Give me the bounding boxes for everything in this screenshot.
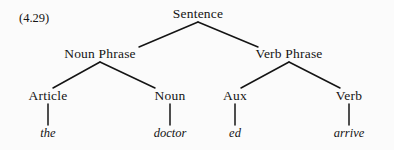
sentence-to-verb-phrase — [198, 22, 258, 47]
leaf-the: the — [40, 127, 55, 140]
node-sentence: Sentence — [173, 7, 223, 21]
node-aux: Aux — [223, 89, 247, 103]
node-verb: Verb — [336, 89, 362, 103]
parse-tree-figure: (4.29) Sentence Noun Phrase Verb Phrase … — [0, 0, 394, 150]
noun-phrase-to-article — [53, 62, 100, 88]
node-noun-phrase: Noun Phrase — [64, 47, 136, 61]
leaf-doctor: doctor — [154, 127, 187, 140]
node-verb-phrase: Verb Phrase — [255, 47, 322, 61]
sentence-to-noun-phrase — [139, 22, 198, 47]
leaf-ed: ed — [229, 127, 241, 140]
node-noun: Noun — [155, 89, 186, 103]
verb-phrase-to-aux — [241, 62, 289, 88]
node-article: Article — [29, 89, 68, 103]
verb-phrase-to-verb — [289, 62, 340, 88]
leaf-arrive: arrive — [334, 127, 365, 140]
noun-phrase-to-noun — [100, 62, 155, 88]
